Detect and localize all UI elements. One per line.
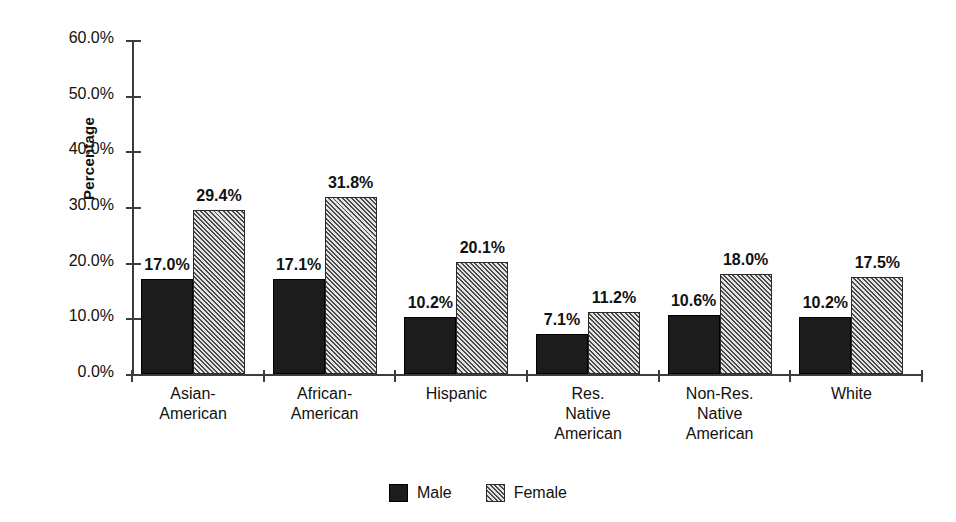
category-label-line: American	[245, 404, 405, 424]
bar-female-0	[193, 210, 245, 374]
x-axis-tick	[394, 370, 396, 382]
y-axis-tick: 60.0%	[126, 40, 141, 42]
bar-value-label: 18.0%	[708, 251, 784, 269]
y-axis-tick: 30.0%	[126, 207, 141, 209]
legend-item-female[interactable]: Female	[486, 484, 567, 502]
legend-label: Male	[417, 484, 452, 502]
x-axis-tick	[921, 370, 923, 382]
y-axis-tick-label: 0.0%	[24, 363, 114, 381]
category-label-line: White	[771, 384, 931, 404]
bar-value-label: 31.8%	[313, 174, 389, 192]
bar-value-label: 17.5%	[839, 254, 915, 272]
bar-value-label: 20.1%	[444, 239, 520, 257]
plot-area: 0.0%10.0%20.0%30.0%40.0%50.0%60.0%17.0%1…	[132, 40, 922, 376]
x-axis-category-label: White	[771, 384, 931, 404]
bar-value-label: 11.2%	[576, 289, 652, 307]
category-label-line: Native	[640, 404, 800, 424]
legend-swatch-icon	[486, 484, 505, 502]
bar-male-3	[536, 334, 588, 374]
y-axis-tick-label: 10.0%	[24, 307, 114, 325]
x-axis-tick	[658, 370, 660, 382]
bar-female-3	[588, 312, 640, 374]
y-axis-tick: 40.0%	[126, 151, 141, 153]
category-label-line: American	[640, 424, 800, 444]
bar-male-2	[404, 317, 456, 374]
y-axis-tick: 50.0%	[126, 96, 141, 98]
y-axis-tick-label: 30.0%	[24, 196, 114, 214]
y-axis-tick-label: 20.0%	[24, 252, 114, 270]
bar-female-1	[325, 197, 377, 374]
bar-male-1	[273, 279, 325, 374]
bar-female-4	[720, 274, 772, 374]
bar-male-4	[668, 315, 720, 374]
y-axis-tick: 10.0%	[126, 318, 141, 320]
bar-value-label: 29.4%	[181, 187, 257, 205]
chart-legend: MaleFemale	[0, 484, 956, 502]
bar-female-2	[456, 262, 508, 374]
x-axis-tick	[789, 370, 791, 382]
bar-male-0	[141, 279, 193, 374]
y-axis-tick: 0.0%	[126, 374, 141, 376]
bar-chart-figure: Percentage 0.0%10.0%20.0%30.0%40.0%50.0%…	[0, 0, 956, 522]
y-axis-tick-label: 60.0%	[24, 29, 114, 47]
y-axis-tick-label: 50.0%	[24, 85, 114, 103]
x-axis-tick	[526, 370, 528, 382]
x-axis-tick	[263, 370, 265, 382]
x-axis-tick	[131, 370, 133, 382]
y-axis-tick-label: 40.0%	[24, 140, 114, 158]
bar-female-5	[851, 277, 903, 374]
legend-label: Female	[514, 484, 567, 502]
legend-item-male[interactable]: Male	[389, 484, 452, 502]
bar-male-5	[799, 317, 851, 374]
legend-swatch-icon	[389, 484, 408, 502]
